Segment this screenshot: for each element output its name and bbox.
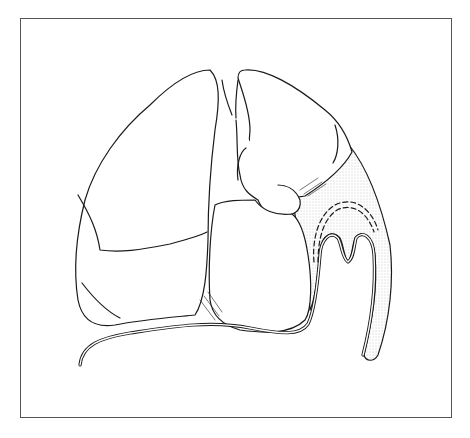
trachea xyxy=(222,80,238,118)
anatomy-illustration xyxy=(0,0,470,438)
heart xyxy=(209,200,310,332)
right-lung xyxy=(76,70,218,326)
